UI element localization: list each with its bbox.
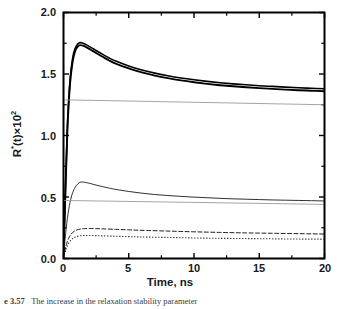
plot-frame-overlay (64, 13, 325, 259)
y-axis-title-base: R (11, 149, 23, 157)
x-axis-title: Time, ns (0, 276, 340, 288)
figure-container: 0.0 0.5 1.0 1.5 2.0 0 5 10 15 20 Time, n… (0, 0, 340, 309)
series-upper-gray-baseline (64, 100, 325, 105)
x-tick-label-2: 10 (179, 262, 209, 274)
x-tick-label-0: 0 (48, 262, 78, 274)
y-tick-label-4: 2.0 (20, 6, 56, 18)
series-middle-solid-thin (64, 182, 325, 257)
x-tick-label-4: 20 (310, 262, 340, 274)
y-tick-label-3: 1.5 (20, 68, 56, 80)
series-middle-gray-baseline (64, 200, 325, 204)
y-axis-title-rest: (t)×10 (11, 115, 23, 146)
plot-frame (64, 13, 325, 259)
x-tick-label-3: 15 (244, 262, 274, 274)
series-upper-solid-thick-a (64, 45, 325, 256)
figure-caption-number: e 3.57 (4, 296, 25, 306)
y-axis-title-exponent: 2 (9, 111, 18, 115)
y-axis-title: R*(t)×102 (11, 79, 23, 189)
y-tick-label-1: 0.5 (20, 192, 56, 204)
figure-caption: e 3.57 The increase in the relaxation st… (4, 296, 340, 306)
series-upper-solid-thick-b (64, 43, 325, 256)
y-axis-title-star: * (9, 146, 18, 149)
x-tick-label-1: 5 (113, 262, 143, 274)
figure-caption-text: The increase in the relaxation stability… (31, 296, 197, 306)
y-tick-label-2: 1.0 (20, 130, 56, 142)
